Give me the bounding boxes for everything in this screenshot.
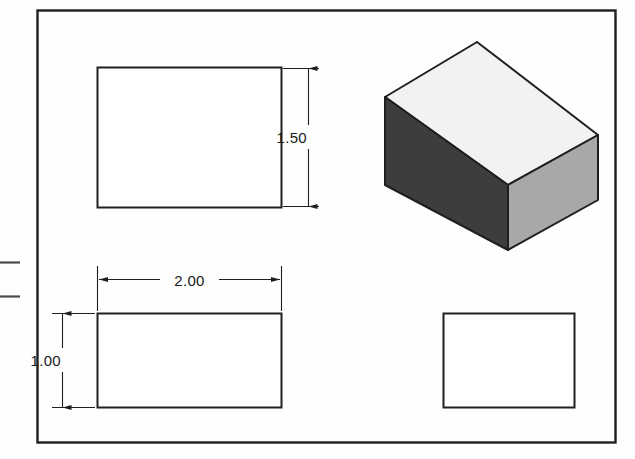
isometric-view-block[interactable]: [385, 42, 598, 250]
drawing-canvas: 1.50 2.00 1.00: [0, 0, 635, 459]
front-view-rectangle[interactable]: [98, 68, 282, 208]
dimension-label-1-00: 1.00: [31, 352, 61, 369]
top-view-rectangle[interactable]: [98, 314, 282, 408]
dimension-label-1-50: 1.50: [277, 129, 307, 146]
dimension-height-1-50[interactable]: 1.50: [277, 69, 326, 207]
drawing-sheet: 1.50 2.00 1.00: [0, 0, 635, 459]
dimension-label-2-00: 2.00: [174, 272, 204, 289]
dimension-depth-1-00[interactable]: 1.00: [31, 314, 95, 408]
dimension-width-2-00[interactable]: 2.00: [98, 266, 282, 311]
right-side-view-rectangle[interactable]: [444, 314, 575, 408]
